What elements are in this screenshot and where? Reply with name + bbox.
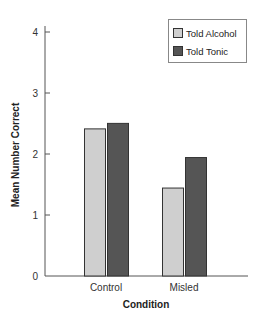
bar-chart: 01234 ControlMisled Told AlcoholTold Ton… [0, 0, 262, 322]
legend-label: Told Alcohol [186, 28, 237, 39]
bar-told-tonic-misled [186, 158, 207, 276]
y-tick-label: 1 [32, 210, 38, 221]
y-axis-title: Mean Number Correct [10, 102, 21, 207]
y-tick-label: 3 [32, 88, 38, 99]
bar-group-misled [163, 158, 207, 276]
legend: Told AlcoholTold Tonic [169, 20, 247, 63]
y-tick-label: 4 [32, 27, 38, 38]
bar-group-control [85, 123, 129, 276]
y-tick-label: 0 [32, 271, 38, 282]
x-category-label: Misled [170, 282, 199, 293]
y-tick-label: 2 [32, 149, 38, 160]
x-category-label: Control [90, 282, 122, 293]
bar-told-alcohol-misled [163, 188, 184, 276]
bar-told-alcohol-control [85, 129, 106, 276]
y-axis: 01234 [32, 26, 50, 282]
legend-swatch [174, 47, 183, 56]
x-axis: ControlMisled [45, 276, 248, 293]
bar-told-tonic-control [108, 123, 129, 276]
legend-label: Told Tonic [186, 46, 228, 57]
bars [85, 123, 207, 276]
x-axis-title: Condition [123, 299, 170, 310]
legend-swatch [174, 29, 183, 38]
